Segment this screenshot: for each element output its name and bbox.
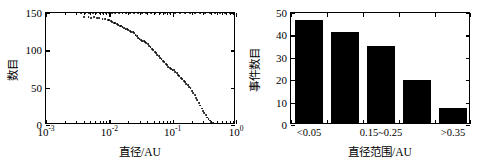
left-x-tick-label: 10-1 — [164, 127, 181, 138]
right-x-tick-top — [291, 13, 292, 17]
left-x-minor-tick — [84, 121, 85, 124]
left-x-minor-tick — [217, 121, 218, 124]
left-x-minor-tick — [170, 121, 171, 124]
left-y-tick-label: 50 — [31, 82, 42, 93]
left-plot-frame: 05010015010-310-210-1100 — [45, 12, 235, 124]
left-x-minor-tick-top — [192, 13, 193, 16]
left-chart-panel: 05010015010-310-210-1100 直径/AU 数目 — [0, 0, 242, 166]
left-x-minor-tick — [154, 121, 155, 124]
right-x-tick-top — [327, 13, 328, 17]
left-x-minor-tick — [159, 121, 160, 124]
left-x-minor-tick — [128, 121, 129, 124]
left-x-minor-tick — [103, 121, 104, 124]
right-y-tick — [291, 35, 295, 36]
left-x-tick-label: 10-2 — [101, 127, 118, 138]
left-x-minor-tick-top — [76, 13, 77, 16]
scatter-point — [125, 13, 127, 14]
right-y-tick-label: 30 — [276, 52, 287, 63]
left-x-minor-tick-top — [140, 13, 141, 16]
left-y-tick-right — [231, 88, 235, 89]
scatter-point — [199, 13, 201, 14]
right-x-tick — [291, 120, 292, 124]
left-x-minor-tick-top — [90, 13, 91, 16]
left-x-minor-tick — [100, 121, 101, 124]
left-x-minor-tick — [65, 121, 66, 124]
left-x-minor-tick — [76, 121, 77, 124]
right-y-tick-right — [466, 80, 470, 81]
right-y-tick — [291, 103, 295, 104]
left-y-tick-label: 100 — [26, 45, 43, 56]
left-x-minor-tick — [163, 121, 164, 124]
scatter-point — [111, 13, 113, 14]
right-x-tick — [435, 120, 436, 124]
right-x-tick — [470, 120, 471, 124]
right-chart-panel: 01020304050<0.050.15~0.25>0.35 直径范围/AU 事… — [242, 0, 483, 166]
left-x-minor-tick-top — [106, 13, 107, 16]
scatter-point — [184, 13, 186, 14]
scatter-point — [102, 18, 104, 20]
left-x-minor-tick — [106, 121, 107, 124]
left-scatter-data-area — [46, 13, 234, 123]
right-x-tick-top — [435, 13, 436, 17]
left-x-tick-label: 10-3 — [37, 127, 54, 138]
bar-2 — [331, 32, 360, 123]
bar-3 — [367, 46, 396, 123]
scatter-point — [189, 13, 191, 14]
scatter-point — [197, 99, 199, 101]
scatter-point — [194, 13, 196, 14]
scatter-point — [83, 17, 85, 19]
left-x-minor-tick-top — [167, 13, 168, 16]
left-y-tick — [46, 88, 50, 89]
scatter-point — [122, 13, 124, 14]
figure-container: 05010015010-310-210-1100 直径/AU 数目 010203… — [0, 0, 483, 166]
left-y-axis-title: 数目 — [4, 42, 20, 98]
left-x-minor-tick — [167, 121, 168, 124]
left-x-minor-tick — [230, 121, 231, 124]
left-x-minor-tick-top — [147, 13, 148, 16]
left-x-tick — [173, 120, 174, 124]
left-x-minor-tick-top — [233, 13, 234, 16]
left-y-tick-label: 150 — [26, 8, 43, 19]
left-x-minor-tick-top — [226, 13, 227, 16]
scatter-point — [92, 13, 94, 14]
scatter-point — [214, 13, 216, 14]
right-x-tick — [399, 120, 400, 124]
left-x-minor-tick — [140, 121, 141, 124]
left-x-minor-tick-top — [65, 13, 66, 16]
bar-category-label-3: >0.35 — [441, 128, 465, 139]
left-x-minor-tick — [90, 121, 91, 124]
left-x-tick-top — [46, 13, 47, 17]
scatter-point — [98, 17, 100, 19]
right-x-tick-top — [399, 13, 400, 17]
scatter-point — [164, 13, 166, 14]
right-x-tick — [327, 120, 328, 124]
left-y-tick — [46, 50, 50, 51]
left-x-minor-tick — [192, 121, 193, 124]
right-y-tick-right — [466, 13, 470, 14]
bar-category-label-2: 0.15~0.25 — [360, 128, 402, 139]
left-x-minor-tick — [147, 121, 148, 124]
bar-4 — [403, 80, 432, 123]
left-x-minor-tick — [233, 121, 234, 124]
bar-5 — [439, 108, 468, 123]
right-x-tick-top — [470, 13, 471, 17]
right-y-tick-label: 20 — [276, 75, 287, 86]
left-x-minor-tick — [222, 121, 223, 124]
left-x-minor-tick-top — [170, 13, 171, 16]
left-x-minor-tick-top — [211, 13, 212, 16]
right-y-tick-label: 0 — [282, 120, 288, 131]
scatter-point — [80, 13, 82, 14]
left-x-minor-tick — [203, 121, 204, 124]
scatter-point — [90, 17, 92, 19]
scatter-point — [174, 13, 176, 14]
scatter-point — [133, 13, 135, 14]
left-x-minor-tick-top — [222, 13, 223, 16]
left-x-minor-tick-top — [163, 13, 164, 16]
bar-category-label-1: <0.05 — [297, 128, 321, 139]
left-x-axis-title: 直径/AU — [45, 143, 235, 159]
left-y-tick-right — [231, 50, 235, 51]
left-x-minor-tick-top — [154, 13, 155, 16]
left-x-tick-top — [173, 13, 174, 17]
scatter-point — [150, 13, 152, 14]
left-x-tick — [109, 120, 110, 124]
